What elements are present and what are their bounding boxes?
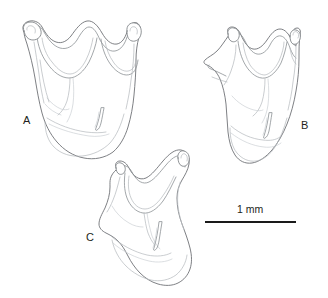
specimen-b — [204, 27, 300, 163]
figure-plate: A B C 1 mm — [0, 0, 328, 298]
specimen-c-outline — [99, 150, 192, 286]
specimen-c — [99, 150, 192, 286]
panel-label-a: A — [23, 114, 31, 126]
panel-label-c: C — [86, 231, 94, 243]
specimen-b-left-knob — [228, 28, 239, 42]
specimen-a — [23, 21, 141, 159]
specimen-a-right-knob — [127, 23, 141, 41]
figure-illustration: A B C 1 mm — [0, 0, 328, 298]
specimen-c-left-knob — [116, 163, 125, 175]
panel-label-b: B — [301, 119, 308, 131]
specimen-a-outline — [23, 21, 140, 159]
scale-bar: 1 mm — [205, 203, 296, 222]
scale-bar-label: 1 mm — [237, 203, 264, 215]
